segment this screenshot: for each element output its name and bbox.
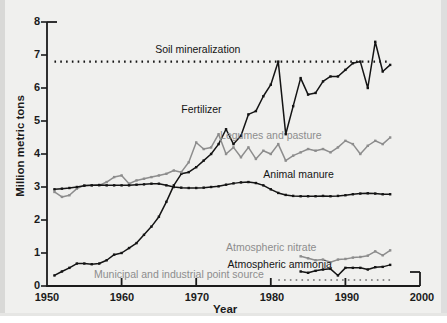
x-axis-title: Year (213, 303, 237, 315)
x-tick-1950: 1950 (25, 291, 69, 303)
series-label-atmospheric-nitrate: Atmospheric nitrate (226, 241, 316, 253)
chart-figure: 8 7 6 5 4 3 2 1 0 1950 1960 1970 1980 19… (0, 0, 447, 323)
x-tick-1960: 1960 (100, 291, 144, 303)
series-label-animal-manure: Animal manure (263, 168, 334, 180)
y-tick-1: 1 (18, 246, 40, 258)
series-label-legumes-and-pasture: Legumes and pasture (220, 129, 322, 141)
series-label-soil-mineralization: Soil mineralization (155, 43, 240, 55)
x-tick-1990: 1990 (325, 291, 369, 303)
x-tick-1970: 1970 (175, 291, 219, 303)
series-label-municipal-point-source: Municipal and industrial point source (94, 268, 264, 280)
y-tick-8: 8 (18, 15, 40, 27)
y-axis-title: Million metric tons (14, 86, 26, 206)
x-tick-2000: 2000 (400, 291, 444, 303)
series-label-fertilizer: Fertilizer (181, 103, 221, 115)
y-tick-2: 2 (18, 213, 40, 225)
x-tick-1980: 1980 (250, 291, 294, 303)
y-tick-0: 0 (18, 279, 40, 291)
y-tick-7: 7 (18, 48, 40, 60)
